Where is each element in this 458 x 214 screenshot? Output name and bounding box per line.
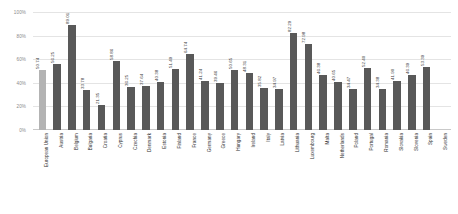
- x-axis-category-label: Malta: [325, 133, 330, 144]
- x-axis-label-slot: Luxembourg: [301, 131, 316, 211]
- bar-value-text: 50.74: [35, 58, 40, 69]
- x-axis-category-label: France: [192, 133, 197, 148]
- x-axis-category-label: Latvia: [280, 133, 285, 146]
- bar-slot: 41.90: [390, 12, 405, 130]
- bar-value-text: 37.64: [138, 73, 143, 84]
- bar[interactable]: 50.74: [39, 70, 47, 130]
- bar-value-label: 34.38: [377, 83, 382, 94]
- bar-slot: 34.97: [272, 12, 287, 130]
- x-axis-label-slot: Slovakia: [390, 131, 405, 211]
- bar-value-text: 64.74: [183, 41, 188, 52]
- bar-slot: 52.40: [360, 12, 375, 130]
- bar[interactable]: 41.24: [201, 81, 209, 130]
- bar-value-text: 39.46: [212, 71, 217, 82]
- bar[interactable]: 72.98: [305, 44, 313, 130]
- bar[interactable]: 21.35: [98, 105, 106, 130]
- bar[interactable]: 37.64: [142, 86, 150, 130]
- x-axis-label-slot: Ireland: [242, 131, 257, 211]
- x-axis-category-label: Netherlands: [340, 133, 345, 158]
- bar[interactable]: 36.25: [127, 87, 135, 130]
- bar-value-text: 34.97: [271, 77, 276, 88]
- bar[interactable]: 34.47: [349, 89, 357, 130]
- bar-value-label: 82.29: [289, 26, 294, 37]
- bar-value-label: 53.39: [422, 60, 427, 71]
- bar-value-text: 34.38: [375, 77, 380, 88]
- bar-slot: 64.74: [183, 12, 198, 130]
- bar-value-text: 41.90: [390, 68, 395, 79]
- x-axis-label-slot: Hungary: [227, 131, 242, 211]
- bar[interactable]: 53.39: [423, 67, 431, 130]
- x-axis-category-label: Lithuania: [295, 133, 300, 152]
- bar-value-text: 56.25: [50, 51, 55, 62]
- bar-value-text: 51.49: [168, 57, 173, 68]
- bar[interactable]: 35.82: [260, 88, 268, 130]
- bar-value-text: 46.38: [316, 63, 321, 74]
- x-axis-category-label: Denmark: [147, 133, 152, 152]
- bar-value-label: 58.86: [111, 54, 116, 65]
- bar-value-label: 35.82: [259, 81, 264, 92]
- bar[interactable]: 34.97: [275, 89, 283, 130]
- bar-slot: 56.25: [50, 12, 65, 130]
- y-axis: 0%20%40%60%80%100%: [0, 12, 30, 130]
- x-axis-category-label: Estonia: [162, 133, 167, 149]
- bar-value-label: 41.24: [200, 75, 205, 86]
- bar-value-text: 53.39: [419, 55, 424, 66]
- bar[interactable]: 51.49: [172, 69, 180, 130]
- bar[interactable]: 41.90: [393, 81, 401, 130]
- x-axis-label-slot: European Union: [35, 131, 50, 211]
- bar-slot: 41.24: [198, 12, 213, 130]
- bar[interactable]: 48.31: [246, 73, 254, 130]
- bar-slot: 21.35: [94, 12, 109, 130]
- x-axis-category-label: Czechia: [133, 133, 138, 150]
- bar-slot: 58.86: [109, 12, 124, 130]
- x-axis-label-slot: Bulgaria: [79, 131, 94, 211]
- bar-slot: 33.78: [79, 12, 94, 130]
- bar[interactable]: 89.01: [68, 25, 76, 130]
- x-axis-category-label: Sweden: [443, 133, 448, 150]
- bar[interactable]: 50.65: [231, 70, 239, 130]
- bar-value-label: 36.25: [126, 81, 131, 92]
- bar-value-text: 33.78: [79, 78, 84, 89]
- bar[interactable]: 56.25: [53, 64, 61, 130]
- bar-value-text: 36.25: [124, 75, 129, 86]
- bar-value-label: 21.35: [97, 98, 102, 109]
- bar-value-label: 52.40: [363, 62, 368, 73]
- bar-slot: 53.39: [419, 12, 434, 130]
- x-axis-category-label: Spain: [428, 133, 433, 145]
- bar-value-text: 50.65: [227, 58, 232, 69]
- bar[interactable]: 82.29: [290, 33, 298, 130]
- x-axis-category-label: Austria: [59, 133, 64, 148]
- bar-slot: 46.39: [405, 12, 420, 130]
- plot-area: 50.7456.2589.0133.7821.3558.8636.2537.64…: [33, 12, 451, 130]
- bar[interactable]: 40.38: [157, 82, 165, 130]
- bar[interactable]: 34.38: [379, 89, 387, 130]
- x-axis-category-label: Ireland: [251, 133, 256, 147]
- bar[interactable]: 46.39: [408, 75, 416, 130]
- bar-chart: 0%20%40%60%80%100% 50.7456.2589.0133.782…: [0, 0, 458, 214]
- x-axis-category-label: Bulgaria: [88, 133, 93, 150]
- bar-slot: 50.74: [35, 12, 50, 130]
- bar[interactable]: 39.46: [216, 83, 224, 130]
- bar[interactable]: 33.78: [83, 90, 91, 130]
- bar[interactable]: 46.38: [319, 75, 327, 130]
- x-axis-label-slot: Belgium: [65, 131, 80, 211]
- bar-value-text: 40.38: [153, 70, 158, 81]
- bar[interactable]: 58.86: [113, 61, 121, 130]
- bar[interactable]: 52.40: [364, 68, 372, 130]
- bar-value-text: 21.35: [94, 93, 99, 104]
- x-axis-category-label: Germany: [207, 133, 212, 152]
- x-axis-category-label: European Union: [44, 133, 49, 167]
- bar-value-text: 34.47: [345, 77, 350, 88]
- bar[interactable]: 40.65: [334, 82, 342, 130]
- x-axis-label-slot: Germany: [198, 131, 213, 211]
- bar-value-label: 40.38: [156, 76, 161, 87]
- bar-value-text: 89.01: [64, 13, 69, 24]
- bar[interactable]: 64.74: [186, 54, 194, 130]
- x-axis-label-slot: Portugal: [360, 131, 375, 211]
- bar-value-label: 56.25: [52, 57, 57, 68]
- x-axis-label-slot: Spain: [419, 131, 434, 211]
- y-axis-tick: 40%: [17, 80, 27, 85]
- x-axis-label-slot: Cyprus: [109, 131, 124, 211]
- bar-value-label: 50.74: [37, 64, 42, 75]
- bar-slot: 48.31: [242, 12, 257, 130]
